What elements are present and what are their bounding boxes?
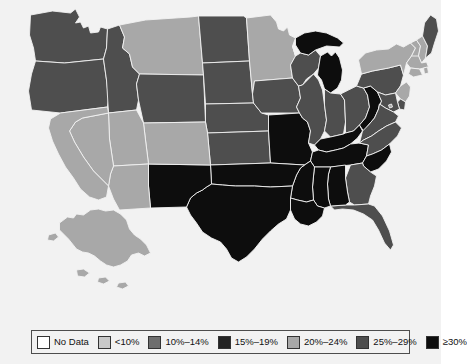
legend-item[interactable]: <10% [98,336,140,349]
legend-label: No Data [54,337,89,347]
state-CT[interactable] [409,68,423,77]
state-MI-upper[interactable] [296,31,344,55]
legend-swatch [37,336,50,349]
legend-item[interactable]: ≥30% [426,336,467,349]
us-map-svg [0,0,441,318]
legend-swatch [98,336,111,349]
legend-label: ≥30% [443,337,467,347]
state-TX[interactable] [187,184,293,262]
state-ND[interactable] [199,16,250,63]
state-AK[interactable] [48,209,151,289]
state-OR[interactable] [29,59,109,113]
state-FL[interactable] [331,204,394,250]
state-MT[interactable] [120,16,204,75]
legend-swatch [426,336,439,349]
legend-swatch [218,336,231,349]
state-DC[interactable] [389,104,393,108]
legend-item[interactable]: 20%–24% [287,336,347,349]
state-WY[interactable] [137,74,206,123]
legend-swatch [356,336,369,349]
states-layer [29,9,439,289]
legend-label: 25%–29% [373,337,416,347]
legend-label: <10% [115,337,140,347]
legend-item[interactable]: 15%–19% [218,336,278,349]
legend-item[interactable]: 10%–14% [148,336,208,349]
legend-swatch [148,336,161,349]
legend-label: 10%–14% [165,337,208,347]
state-WA[interactable] [30,9,108,63]
legend-item[interactable]: 25%–29% [356,336,416,349]
state-OK[interactable] [211,163,305,187]
state-AL[interactable] [328,165,350,206]
us-map-area [0,0,441,318]
state-IA[interactable] [253,78,301,113]
legend-label: 15%–19% [235,337,278,347]
legend-label: 20%–24% [304,337,347,347]
legend-item[interactable]: No Data [37,336,89,349]
legend-swatch [287,336,300,349]
state-KS[interactable] [208,131,271,165]
state-CO[interactable] [144,122,211,165]
state-SD[interactable] [203,61,254,104]
state-RI[interactable] [424,67,429,74]
state-AZ[interactable] [109,164,151,210]
choropleth-legend: No Data<10%10%–14%15%–19%20%–24%25%–29%≥… [31,330,410,354]
